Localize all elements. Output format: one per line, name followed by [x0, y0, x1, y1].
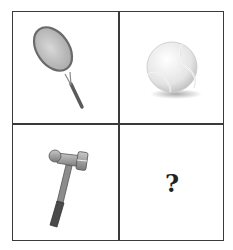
- hammer-icon: [13, 125, 118, 241]
- tennis-racket-icon: [13, 12, 118, 123]
- cell-top-left: [13, 12, 118, 123]
- tennis-ball-icon: [120, 12, 224, 123]
- cell-bottom-left: [13, 125, 118, 241]
- question-mark: ?: [120, 125, 224, 241]
- cell-top-right: [120, 12, 224, 123]
